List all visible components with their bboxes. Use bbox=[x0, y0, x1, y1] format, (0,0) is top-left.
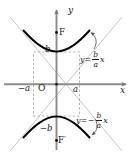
hyperbola-figure: y x O a −a b −b F F′ y= b a x y= − b a x bbox=[0, 0, 133, 155]
asymptote-negative-numerator: b bbox=[95, 112, 102, 120]
asymptote-positive-variable: x bbox=[100, 56, 105, 64]
x-axis-label: x bbox=[120, 86, 125, 95]
asymptote-positive-equation: y= b a x bbox=[80, 51, 105, 68]
asymptote-positive-denominator: a bbox=[92, 59, 98, 68]
figure-canvas bbox=[0, 0, 133, 155]
asymptote-positive-numerator: b bbox=[92, 51, 99, 59]
asymptote-negative-lhs: y= bbox=[76, 117, 87, 125]
vertex-a-positive-label: a bbox=[73, 85, 78, 94]
asymptote-negative-fraction: b a bbox=[95, 112, 102, 129]
asymptote-negative-denominator: a bbox=[96, 120, 102, 129]
origin-label: O bbox=[38, 84, 45, 93]
y-axis-label: y bbox=[68, 6, 73, 15]
vertex-b-positive-label: b bbox=[45, 45, 50, 54]
focus-upper-label: F bbox=[59, 28, 65, 37]
focus-lower-label: F′ bbox=[58, 136, 66, 145]
origin-dot bbox=[55, 83, 58, 86]
asymptote-positive-callout-arrow bbox=[91, 33, 96, 50]
asymptote-negative-variable: x bbox=[103, 117, 108, 125]
vertex-b-negative-label: −b bbox=[40, 124, 53, 133]
asymptote-negative-sign: − bbox=[88, 117, 95, 125]
axes bbox=[4, 10, 126, 150]
asymptote-positive-lhs: y= bbox=[80, 56, 91, 64]
focus-upper-dot bbox=[55, 31, 58, 34]
asymptote-negative-equation: y= − b a x bbox=[76, 112, 108, 129]
vertex-a-negative-label: −a bbox=[18, 84, 30, 93]
asymptote-positive-fraction: b a bbox=[92, 51, 99, 68]
